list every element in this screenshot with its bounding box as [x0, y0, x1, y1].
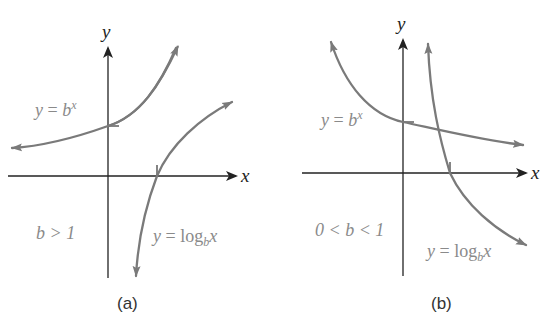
panel-a-y-axis-label: y — [102, 22, 110, 41]
panel-a-condition-label: b > 1 — [36, 224, 75, 242]
panel-b-graph — [302, 40, 526, 276]
exp-lhs: y — [35, 100, 43, 120]
log-base: b — [477, 250, 483, 264]
panel-b-log-curve — [428, 44, 450, 173]
exp-log-figure: y x y = bx b > 1 y = logbx (a) y x y = b… — [0, 0, 560, 326]
log-func: log — [454, 241, 477, 261]
log-eq: = — [440, 241, 450, 261]
exp-exponent: x — [71, 98, 76, 112]
exp-exponent: x — [357, 108, 362, 122]
exp-eq: = — [48, 100, 58, 120]
log-base: b — [203, 235, 209, 249]
panel-a-log-label: y = logbx — [153, 227, 217, 245]
panel-a-x-axis-label: x — [241, 166, 249, 185]
log-eq: = — [166, 226, 176, 246]
panel-b-log-label: y = logbx — [427, 242, 491, 260]
panel-b-caption: (b) — [431, 295, 452, 312]
log-lhs: y — [153, 226, 161, 246]
panel-b-condition-label: 0 < b < 1 — [315, 221, 384, 239]
panel-b-x-axis-label: x — [531, 163, 539, 182]
panel-b-exp-label: y = bx — [321, 111, 362, 129]
exp-eq: = — [334, 110, 344, 130]
log-arg: x — [209, 226, 217, 246]
graph-canvas — [0, 0, 560, 326]
log-lhs: y — [427, 241, 435, 261]
exp-base: b — [62, 100, 71, 120]
log-func: log — [180, 226, 203, 246]
log-arg: x — [483, 241, 491, 261]
panel-a-log-curve — [157, 102, 232, 176]
exp-base: b — [348, 110, 357, 130]
exp-lhs: y — [321, 110, 329, 130]
panel-a-exp-label: y = bx — [35, 101, 76, 119]
panel-a-exp-curve — [12, 48, 176, 148]
panel-a-caption: (a) — [117, 295, 138, 312]
panel-b-y-axis-label: y — [397, 14, 405, 33]
